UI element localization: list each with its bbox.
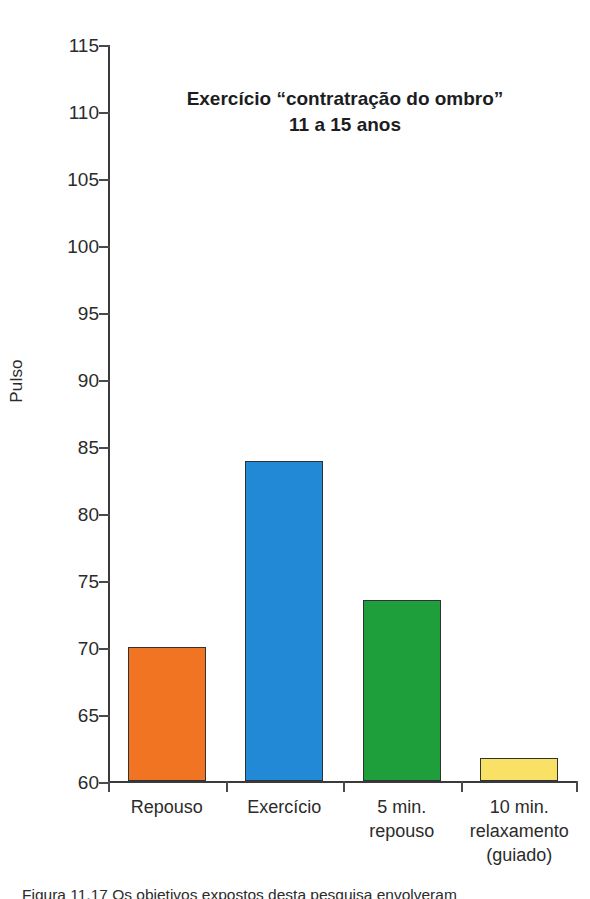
- y-axis-tick-label: 90: [78, 370, 99, 392]
- bar: [480, 758, 558, 781]
- bar: [245, 461, 323, 781]
- y-axis-tick-label: 105: [67, 169, 99, 191]
- x-axis-label: 10 min.relaxamento(guiado): [461, 795, 579, 867]
- bar-chart-figure: Pulso Exercício “contratração do ombro” …: [0, 0, 590, 899]
- y-axis-tick-label: 100: [67, 236, 99, 258]
- x-axis-label-line: (guiado): [461, 843, 579, 867]
- x-axis-tick: [461, 781, 463, 792]
- bar: [128, 647, 206, 781]
- y-axis-tick: [99, 514, 110, 516]
- plot-area: 1151101051009590858075706560: [108, 46, 578, 783]
- y-axis-tick: [99, 179, 110, 181]
- y-axis-tick-label: 85: [78, 437, 99, 459]
- y-axis-tick-label: 95: [78, 303, 99, 325]
- y-axis-tick: [99, 112, 110, 114]
- x-axis-label: Repouso: [108, 795, 226, 819]
- x-axis-label-line: 10 min.: [461, 795, 579, 819]
- y-axis-tick-label: 115: [69, 35, 99, 57]
- y-axis-tick: [99, 715, 110, 717]
- y-axis-tick-label: 60: [78, 772, 99, 794]
- y-axis-title: Pulso: [7, 336, 27, 426]
- y-axis-line: [108, 46, 110, 783]
- y-axis-tick-label: 80: [78, 504, 99, 526]
- y-axis-tick-label: 110: [69, 102, 99, 124]
- x-axis-label-line: 5 min.: [343, 795, 461, 819]
- x-axis-tick: [108, 781, 110, 792]
- x-axis-tick: [343, 781, 345, 792]
- figure-caption: Figura 11.17 Os objetivos expostos desta…: [22, 884, 582, 899]
- y-axis-tick: [99, 380, 110, 382]
- x-axis-label: Exercício: [226, 795, 344, 819]
- x-axis-label-line: Exercício: [226, 795, 344, 819]
- x-axis-label-line: Repouso: [108, 795, 226, 819]
- y-axis-tick: [99, 581, 110, 583]
- x-axis-label-line: relaxamento: [461, 819, 579, 843]
- y-axis-tick-label: 65: [78, 705, 99, 727]
- y-axis-tick: [99, 648, 110, 650]
- x-axis-tick: [226, 781, 228, 792]
- x-axis-tick: [576, 781, 578, 792]
- y-axis-tick: [99, 447, 110, 449]
- y-axis-tick: [99, 313, 110, 315]
- x-axis-label-line: repouso: [343, 819, 461, 843]
- bar: [363, 600, 441, 781]
- y-axis-tick: [99, 246, 110, 248]
- y-axis-tick: [99, 45, 110, 47]
- y-axis-tick-label: 70: [78, 638, 99, 660]
- y-axis-tick-label: 75: [78, 571, 99, 593]
- x-axis-label: 5 min.repouso: [343, 795, 461, 843]
